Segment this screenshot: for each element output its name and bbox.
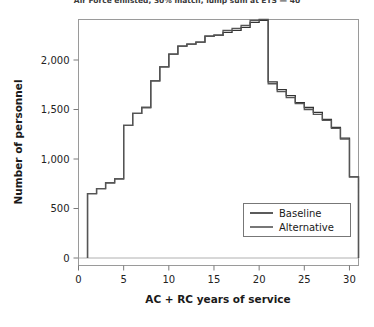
x-axis-label: AC + RC years of service bbox=[145, 293, 290, 305]
legend-label-baseline: Baseline bbox=[279, 208, 321, 219]
y-tick-label: 2,000 bbox=[41, 55, 70, 66]
x-axis-ticks: 051015202530 bbox=[75, 266, 356, 285]
x-tick-label: 10 bbox=[162, 274, 175, 285]
legend-label-alternative: Alternative bbox=[279, 222, 334, 233]
y-axis-label: Number of personnel bbox=[12, 79, 24, 204]
y-tick-label: 1,500 bbox=[41, 104, 70, 115]
chart-figure: Air Force enlisted, 30% match, lump sum … bbox=[0, 0, 374, 327]
x-tick-label: 20 bbox=[253, 274, 266, 285]
y-tick-label: 0 bbox=[63, 253, 69, 264]
x-tick-label: 30 bbox=[343, 274, 356, 285]
y-tick-label: 500 bbox=[50, 203, 69, 214]
y-axis-ticks: 05001,0001,5002,000 bbox=[41, 55, 79, 264]
chart-plot-area: 05001,0001,5002,000 051015202530 Number … bbox=[0, 0, 374, 327]
x-tick-label: 5 bbox=[120, 274, 126, 285]
chart-legend[interactable]: Baseline Alternative bbox=[244, 204, 351, 237]
y-tick-label: 1,000 bbox=[41, 154, 70, 165]
x-tick-label: 0 bbox=[75, 274, 81, 285]
x-tick-label: 25 bbox=[298, 274, 311, 285]
x-tick-label: 15 bbox=[208, 274, 221, 285]
